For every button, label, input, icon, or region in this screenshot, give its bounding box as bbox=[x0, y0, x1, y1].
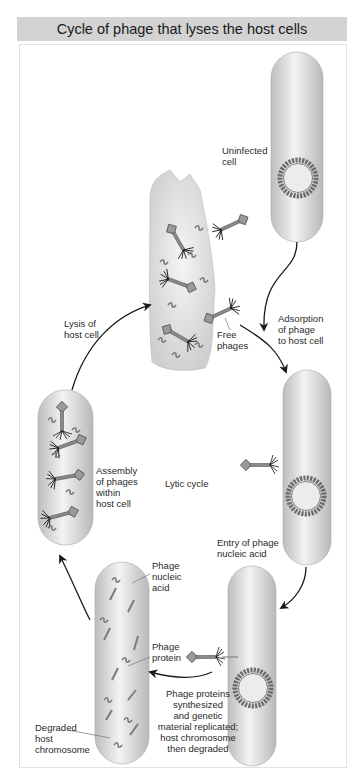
label-lytic-cycle: Lytic cycle bbox=[165, 478, 208, 489]
callout-phage-protein: Phage protein bbox=[152, 641, 181, 663]
phage-icon bbox=[186, 647, 225, 666]
label-lysis: Lysis of host cell bbox=[64, 318, 99, 340]
callout-phage-nucleic-acid: Phage nucleic acid bbox=[152, 560, 182, 593]
label-uninfected-cell: Uninfected cell bbox=[222, 145, 267, 167]
label-adsorption: Adsorption of phage to host cell bbox=[278, 313, 323, 346]
adsorption-cell bbox=[240, 370, 331, 565]
label-assembly: Assembly of phages within host cell bbox=[96, 465, 138, 509]
uninfected-cell bbox=[271, 52, 323, 242]
phage-icon bbox=[240, 455, 279, 474]
callout-free-phages: Free phages bbox=[217, 329, 248, 351]
label-entry: Entry of phage nucleic acid bbox=[217, 537, 279, 559]
assembly-cell bbox=[38, 390, 93, 545]
callout-degraded-chromosome: Degraded host chromosome bbox=[35, 722, 90, 755]
replication-cell bbox=[95, 562, 149, 764]
label-synthesis: Phage proteins synthesized and genetic m… bbox=[148, 688, 248, 754]
